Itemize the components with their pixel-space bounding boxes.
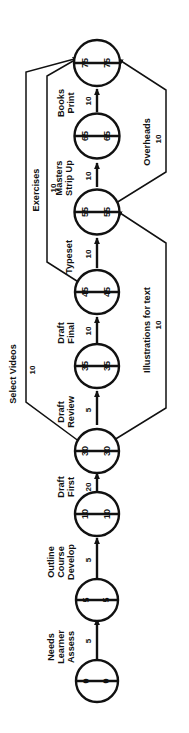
duration-assess-learner-needs: 5 (84, 638, 93, 643)
network-diagram: 0 0 5 5 10 10 30 30 35 35 (0, 0, 189, 733)
node-event-75[interactable]: 75 75 (74, 40, 120, 86)
node-0-latest: 0 (81, 678, 91, 683)
label-final-draft: Final Draft 10 (56, 322, 93, 343)
svg-text:Overheads: Overheads (142, 118, 152, 166)
node-5-latest: 5 (81, 597, 91, 602)
duration-overheads: 10 (154, 134, 163, 143)
svg-text:Needs: Needs (46, 633, 56, 661)
node-10-earliest: 10 (102, 509, 112, 519)
svg-text:Select Videos: Select Videos (8, 344, 18, 404)
svg-text:Final: Final (66, 322, 76, 343)
duration-illustrations-for-text: 10 (154, 320, 163, 329)
label-develop-course-outline: Develop Course Outline 5 (46, 544, 93, 580)
node-event-0[interactable]: 0 0 (76, 660, 118, 702)
node-55-earliest: 55 (102, 207, 112, 217)
label-print-books: Print Books 10 (56, 89, 93, 117)
svg-text:Assess: Assess (66, 631, 76, 663)
node-event-35[interactable]: 35 35 (75, 344, 119, 388)
label-review-draft: Review Draft 5 (56, 395, 93, 428)
duration-review-draft: 5 (84, 407, 93, 412)
svg-text:Draft: Draft (56, 401, 66, 422)
node-30-earliest: 30 (102, 446, 112, 456)
svg-text:Strip Up: Strip Up (64, 160, 74, 196)
svg-text:Books: Books (56, 89, 66, 117)
svg-text:Develop: Develop (66, 544, 76, 580)
svg-text:Typeset: Typeset (64, 240, 74, 274)
svg-text:Review: Review (66, 395, 76, 428)
node-65-earliest: 65 (102, 131, 112, 141)
node-event-30[interactable]: 30 30 (75, 429, 119, 473)
node-45-latest: 45 (80, 287, 90, 297)
duration-first-draft: 20 (84, 482, 93, 491)
node-event-55[interactable]: 55 55 (75, 190, 120, 235)
edge-overheads (116, 59, 166, 203)
node-event-5[interactable]: 5 5 (76, 579, 118, 621)
node-35-latest: 35 (80, 361, 90, 371)
svg-text:First: First (66, 477, 76, 497)
svg-text:Print: Print (66, 93, 76, 114)
node-65-latest: 65 (80, 131, 90, 141)
node-75-earliest: 75 (102, 58, 112, 68)
label-select-videos: Select Videos 10 (8, 344, 37, 404)
node-35-earliest: 35 (102, 361, 112, 371)
node-0-earliest: 0 (101, 678, 111, 683)
duration-typeset: 10 (84, 249, 93, 258)
duration-select-videos: 10 (28, 365, 37, 374)
svg-text:Draft: Draft (56, 322, 66, 343)
node-event-65[interactable]: 65 65 (75, 114, 120, 159)
label-assess-learner-needs: Assess Learner Needs 5 (46, 630, 93, 664)
node-event-10[interactable]: 10 10 (75, 492, 119, 536)
duration-final-draft: 10 (84, 326, 93, 335)
svg-text:Illustrations for text: Illustrations for text (142, 287, 152, 373)
node-75-latest: 75 (80, 58, 90, 68)
label-illustrations-for-text: Illustrations for text 10 (142, 287, 163, 373)
duration-develop-course-outline: 5 (84, 557, 93, 562)
duration-strip-up-masters: 10 (84, 171, 93, 180)
svg-text:Exercises: Exercises (31, 169, 41, 212)
node-55-latest: 55 (80, 207, 90, 217)
network-diagram-canvas: 0 0 5 5 10 10 30 30 35 35 (0, 0, 189, 733)
node-45-earliest: 45 (102, 287, 112, 297)
duration-print-books: 10 (84, 96, 93, 105)
svg-text:Draft: Draft (56, 476, 66, 497)
node-5-earliest: 5 (101, 597, 111, 602)
label-overheads: Overheads 10 (142, 118, 163, 166)
node-30-latest: 30 (80, 446, 90, 456)
node-10-latest: 10 (80, 509, 90, 519)
svg-text:Course: Course (56, 546, 66, 578)
svg-text:Learner: Learner (56, 630, 66, 664)
node-event-45[interactable]: 45 45 (75, 270, 119, 314)
svg-text:Outline: Outline (46, 546, 56, 578)
duration-exercises: 10 (49, 183, 58, 192)
label-typeset: Typeset 10 (64, 240, 93, 274)
